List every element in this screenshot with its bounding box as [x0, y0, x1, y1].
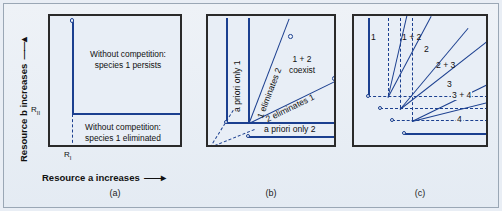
region-label-persists-line2: species 1 persists — [95, 60, 162, 70]
ray-region-2 — [388, 16, 432, 98]
tick-label-r2: RII — [31, 105, 40, 116]
boundary-equilibrium-vertical — [248, 18, 250, 123]
panel-c-caption: (c) — [390, 188, 450, 198]
dashed-vector-species2 — [210, 129, 255, 147]
label-coexist: 1 + 2 coexist — [274, 54, 330, 76]
region-label-4-text: 4 — [457, 114, 462, 124]
region-label-eliminated: Without competition: species 1 eliminate… — [64, 122, 182, 144]
label-coexist-line2: coexist — [289, 65, 315, 75]
boundary-a-priori-only-1-left — [226, 18, 228, 123]
isocline-endpoint-marker — [70, 18, 75, 23]
isocline-horizontal-bottom-solid — [404, 133, 488, 135]
label-a-priori-only-1: a priori only 1 — [232, 60, 242, 112]
marker-ray-1-eliminates-2-end — [288, 34, 293, 39]
boundary-a-priori-only-2 — [248, 136, 336, 138]
marker-corner-1 — [366, 94, 371, 99]
panel-c-plot: 1 1 + 2 2 2 + 3 3 3 + 4 4 — [352, 14, 488, 147]
region-label-4: 4 — [456, 114, 463, 124]
marker-corner-3 — [390, 118, 395, 123]
isocline-vertical-species1 — [72, 20, 74, 114]
figure-container: Resource b increases ——▴ Resource a incr… — [0, 0, 502, 211]
region-label-3: 3 — [447, 79, 452, 89]
ray-region-1-2 — [388, 14, 408, 98]
isocline-species-1 — [368, 18, 370, 96]
boundary-equilibrium-horizontal-left — [226, 122, 250, 124]
region-label-3-4-text: 3 + 4 — [452, 90, 471, 100]
tick-label-r2-subscript: II — [37, 110, 40, 116]
marker-ray-2-eliminates-1-end — [332, 76, 336, 81]
region-label-eliminated-line2: species 1 eliminated — [85, 133, 161, 143]
panel-a-plot: Without competition: species 1 persists … — [48, 14, 182, 147]
region-label-persists: Without competition: species 1 persists — [76, 49, 180, 71]
panel-a: Without competition: species 1 persists … — [4, 4, 194, 209]
panel-b-caption: (b) — [241, 188, 301, 198]
figure-frame: Resource b increases ——▴ Resource a incr… — [3, 3, 499, 208]
panel-b: a priori only 1 1 eliminates 2 2 elimina… — [194, 4, 344, 209]
isocline-species-2-dashed — [388, 18, 389, 96]
region-label-2-3: 2 + 3 — [436, 60, 455, 70]
region-label-3-4: 3 + 4 — [451, 90, 472, 100]
panel-a-caption: (a) — [85, 188, 145, 198]
tick-label-r1-subscript: I — [70, 155, 72, 161]
panel-b-plot: a priori only 1 1 eliminates 2 2 elimina… — [206, 14, 336, 147]
tick-label-r1: RI — [64, 150, 71, 161]
isocline-horizontal-species1 — [72, 113, 182, 115]
region-label-persists-line1: Without competition: — [90, 49, 166, 59]
label-a-priori-only-2: a priori only 2 — [264, 124, 316, 134]
isocline-species-3-dashed — [400, 18, 401, 108]
region-label-1-2: 1 + 2 — [402, 32, 421, 42]
region-label-eliminated-line1: Without competition: — [85, 122, 161, 132]
label-coexist-line1: 1 + 2 — [293, 54, 312, 64]
panel-c: 1 1 + 2 2 2 + 3 3 3 + 4 4 (c) — [344, 4, 500, 209]
marker-corner-2 — [378, 106, 383, 111]
region-label-2: 2 — [424, 44, 429, 54]
isocline-horizontal-3-dashed — [392, 120, 488, 121]
region-label-1: 1 — [371, 32, 376, 42]
